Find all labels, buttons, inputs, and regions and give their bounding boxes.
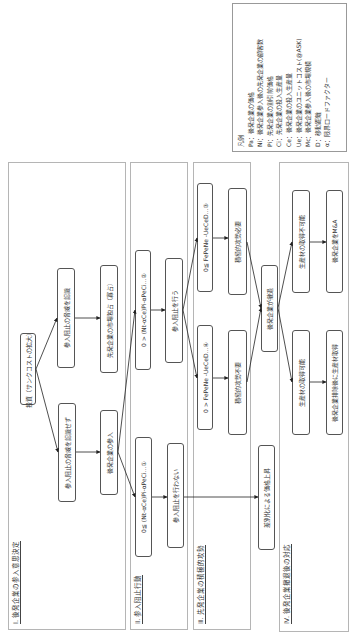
box-entrant-withdraws: 後発企業が撤退 <box>261 265 278 352</box>
legend-item: Pi：先発企業の割引前価格 <box>265 8 275 147</box>
section-4-label: Ⅳ. 後発企業撤退後の対応 <box>283 544 292 624</box>
box-acquire-entrant-ma: 後発企業をM&A <box>326 190 343 293</box>
box-recognize-threat: 参入阻止の脅威を認識 <box>57 268 75 368</box>
legend-item: Ni：後発企業参入後の先発企業の顧客数 <box>255 8 265 147</box>
legend-item: Ci：先発企業の投入生産量 <box>274 8 284 147</box>
legend-item: α：限界ロードファクター <box>322 8 332 147</box>
box-deter-entry: 参入阻止を行う <box>165 258 183 363</box>
box-entrant-entry: 後発企業の参入 <box>100 410 118 495</box>
section-1-label: Ⅰ. 後発企業の参入意思決定 <box>12 541 21 624</box>
box-attack-needed: 積極的攻勢必要 <box>228 188 247 295</box>
section-2-label: Ⅱ. 参入阻止行動 <box>134 575 143 624</box>
legend-item: Ce：後発企業の投入生産量 <box>284 8 294 147</box>
legend: 凡例 Pa：後発企業の価格 Ni：後発企業参入後の先発企業の顧客数 Pi：先発企… <box>232 3 347 152</box>
section-2-frame <box>130 162 188 630</box>
box-acquire-after-exclusion: 後発企業排除後に生産材取得 <box>326 330 343 435</box>
legend-title: 凡例 <box>236 8 246 147</box>
legend-item: Mc：後発企業参入後の市場規模 <box>303 8 313 147</box>
box-not-recognize-threat: 参入阻止の脅威を認識せず <box>58 403 76 502</box>
box-no-deter-entry: 参入阻止を行わない <box>167 443 184 548</box>
box-condition-3: 0≦ FePeNe -UeCeD…③ <box>197 183 213 292</box>
box-can-acquire-assets: 生産材の取得可能 <box>292 330 310 435</box>
flow-diagram: Ⅰ. 後発企業の参入意思決定 Ⅱ. 参入阻止行動 Ⅲ. 先発企業の積極的攻勢 Ⅳ… <box>0 0 350 644</box>
legend-item: Pa：後発企業の価格 <box>246 8 256 147</box>
box-invest: 投資（サンクコストの拡大） <box>20 333 36 405</box>
section-3-label: Ⅲ. 先発企業の積極的攻勢 <box>197 545 206 624</box>
legend-item: Ue：後発企業のユニットコスト(@ASK) <box>294 8 304 147</box>
box-differentiation: 差別化による価格上昇 <box>258 445 275 550</box>
box-attack-not-needed: 積極的攻勢不要 <box>228 330 247 435</box>
box-condition-1: 0≦ (Nt-αCe)Pi-αPeCi…① <box>135 437 152 557</box>
box-condition-2: 0 > (Nt-αCe)Pi-αPeCi…② <box>135 250 151 370</box>
box-condition-4: 0 > FePeNe -UeCeD…④ <box>197 325 213 430</box>
box-incumbent-monopoly: 先発企業の市場独占（寡占） <box>100 265 118 373</box>
legend-item: D：移動距離 <box>313 8 323 147</box>
box-cannot-acquire-assets: 生産材の取得不可能 <box>292 190 310 293</box>
